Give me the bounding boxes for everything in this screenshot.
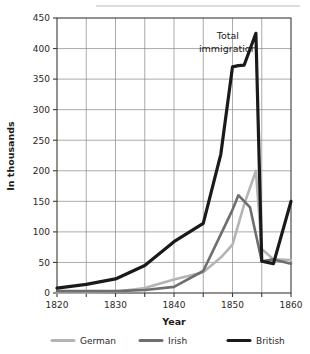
legend-label-irish: Irish [168,336,187,346]
x-tick-labels: 18201830184018501860 [46,300,303,310]
x-tick-label: 1820 [46,300,69,310]
y-tick-label: 450 [33,13,50,23]
legend-label-german: German [80,336,116,346]
y-tick-label: 250 [33,136,50,146]
y-tick-labels: 050100150200250300350400450 [33,13,50,298]
y-tick-label: 50 [39,258,51,268]
immigration-line-chart: 050100150200250300350400450 182018301840… [0,0,310,354]
y-axis-title: In thousands [5,121,16,191]
x-tick-label: 1850 [221,300,244,310]
legend-label-british: British [256,336,285,346]
y-tick-label: 300 [33,105,50,115]
y-tick-label: 100 [33,227,50,237]
y-tick-label: 0 [44,288,50,298]
x-axis-title: Year [161,316,186,327]
annotation-line-2: immigration [199,43,257,54]
y-tick-label: 400 [33,44,50,54]
x-tick-label: 1830 [104,300,127,310]
chart-legend: GermanIrishBritish [52,336,285,346]
x-tick-label: 1860 [280,300,303,310]
x-tick-label: 1840 [163,300,186,310]
y-tick-label: 150 [33,197,50,207]
y-tick-label: 200 [33,166,50,176]
annotation-line-1: Total [216,30,239,41]
chart-annotation: Total immigration [199,30,257,54]
chart-canvas: 050100150200250300350400450 182018301840… [0,0,310,354]
y-tick-label: 350 [33,74,50,84]
